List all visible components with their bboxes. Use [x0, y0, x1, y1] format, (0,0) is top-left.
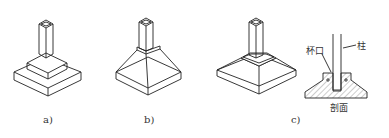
cup-label: 杯口	[306, 44, 324, 57]
foundation-diagram	[0, 0, 389, 138]
figure-a-label: a)	[43, 114, 53, 125]
figure-c-label: c)	[291, 114, 301, 125]
section-label: 剖面	[330, 101, 348, 114]
figure-b-label: b)	[144, 114, 154, 125]
figure-b-tapered-footing	[116, 18, 181, 95]
figure-c-cup-footing	[217, 18, 296, 94]
column-label: 柱	[357, 39, 366, 52]
figure-a-stepped-footing	[14, 20, 81, 96]
